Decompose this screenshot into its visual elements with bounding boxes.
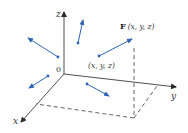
y-axis [64, 74, 176, 87]
x-axis [21, 74, 64, 122]
origin-label: 0 [56, 65, 61, 74]
x-axis-label: x [13, 116, 18, 126]
vector-arrow [28, 38, 59, 58]
vector-arrow [29, 75, 49, 88]
vector-arrow [77, 20, 83, 44]
vector-field-diagram: z y x 0 (x, y, z) F (x, y, z) [0, 0, 188, 133]
vector-arrow [86, 83, 109, 96]
vector-F-symbol: F [120, 21, 126, 31]
vector-field-arrows [28, 20, 132, 96]
y-axis-label: y [170, 91, 177, 101]
vector-F-args: (x, y, z) [128, 22, 155, 31]
point-label: (x, y, z) [88, 61, 115, 70]
y-parallel-projection-line [134, 86, 157, 118]
x-parallel-projection-line [36, 104, 134, 118]
vector-arrow-F [98, 39, 132, 57]
vector-F-label: F (x, y, z) [120, 21, 155, 31]
z-axis-label: z [55, 9, 61, 19]
